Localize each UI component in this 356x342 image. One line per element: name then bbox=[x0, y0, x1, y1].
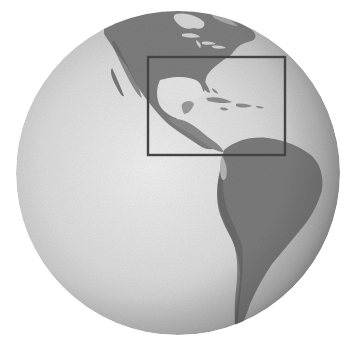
globe-map: Gulf of Mexico and Caribbean region bbox=[0, 0, 356, 342]
globe-limb-shadow bbox=[16, 11, 340, 335]
